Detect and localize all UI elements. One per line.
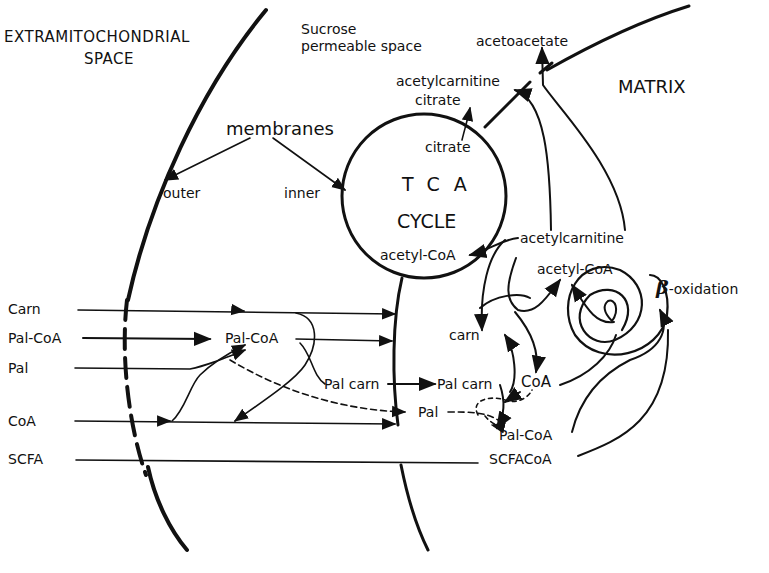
- membranes-label: membranes: [226, 120, 334, 138]
- region-extramitochondrial-label: EXTRAMITOCHONDRIAL: [4, 30, 190, 45]
- tca-title: TCA: [402, 175, 481, 194]
- input-pal-coa: Pal-CoA: [8, 331, 61, 345]
- coa-matrix-label: CoA: [521, 375, 551, 390]
- tca-cycle-label: CYCLE: [397, 212, 456, 231]
- intermembrane-palcarn-label: Pal carn: [324, 377, 379, 391]
- region-sucrose-label-2: permeable space: [301, 39, 422, 53]
- carn-matrix-label: carn: [449, 328, 480, 342]
- outer-membrane: [128, 10, 266, 300]
- beta-oxidation-spiral: [568, 267, 668, 355]
- tca-acetyl-coa-label: acetyl-CoA: [380, 248, 456, 262]
- intermembrane-pal-label: Pal: [418, 405, 438, 419]
- outer-membrane-dashed: [125, 300, 146, 475]
- palcarn-matrix-label: Pal carn: [437, 377, 492, 391]
- intermembrane-pal-coa-label: Pal-CoA: [225, 331, 278, 345]
- scfacoa-label: SCFACoA: [489, 452, 552, 466]
- citrate-top-label: citrate: [415, 93, 461, 107]
- beta-oxidation-label: β-oxidation: [656, 278, 738, 297]
- inner-membrane: [394, 278, 402, 425]
- outer-membrane-label: outer: [163, 186, 200, 200]
- inner-membrane-label: inner: [284, 186, 320, 200]
- input-scfa: SCFA: [8, 452, 43, 466]
- pal-coa-matrix-label: Pal-CoA: [499, 428, 552, 442]
- acetylcarnitine-matrix-label: acetylcarnitine: [520, 231, 624, 245]
- tca-citrate-label: citrate: [425, 140, 471, 154]
- acetoacetate-label: acetoacetate: [476, 34, 568, 48]
- region-extramitochondrial-label-2: SPACE: [84, 52, 134, 67]
- region-sucrose-label: Sucrose: [301, 22, 356, 36]
- region-matrix-label: MATRIX: [618, 78, 686, 96]
- acetyl-coa-matrix-label: acetyl-CoA: [537, 262, 613, 276]
- acetylcarnitine-top-label: acetylcarnitine: [396, 74, 500, 88]
- input-coa: CoA: [8, 414, 36, 428]
- input-carn: Carn: [8, 302, 41, 316]
- input-pal: Pal: [8, 361, 28, 375]
